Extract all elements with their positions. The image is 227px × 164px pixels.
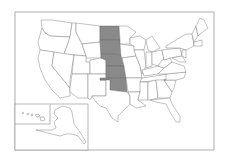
state-iowa[interactable] [120,44,136,58]
state-south-dakota[interactable] [100,40,121,56]
state-arkansas[interactable] [126,78,142,92]
us-map [0,0,227,164]
state-indiana[interactable] [146,52,152,68]
map-container: United States map with highlighted Great… [0,0,227,164]
inset-frame [15,104,88,150]
state-north-dakota[interactable] [100,26,120,40]
state-kansas[interactable] [106,66,126,78]
state-colorado[interactable] [90,58,106,74]
